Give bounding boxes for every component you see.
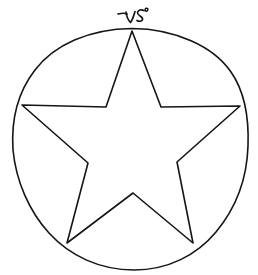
drawing-canvas: Hand drawn five pointed star inside a ci… [0,0,258,275]
star-in-circle-drawing [0,0,258,275]
